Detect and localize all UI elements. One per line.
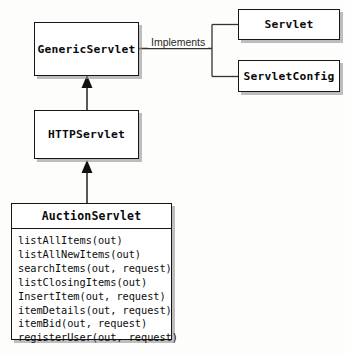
method-item: listAllItems(out) <box>18 234 171 248</box>
class-title-band-auctionservlet: AuctionServlet <box>12 204 171 229</box>
class-name-servletconfig: ServletConfig <box>243 70 334 83</box>
method-item: listClosingItems(out) <box>18 276 171 290</box>
class-box-auctionservlet[interactable]: AuctionServlet listAllItems(out) listAll… <box>11 203 172 340</box>
method-item: itemDetails(out, request) <box>18 304 171 318</box>
inheritance-arrowhead-genericservlet <box>82 75 93 88</box>
method-item: InsertItem(out, request) <box>18 290 171 304</box>
method-item: registerUser(out, request) <box>18 331 171 345</box>
class-box-genericservlet[interactable]: GenericServlet <box>34 22 139 76</box>
method-item: searchItems(out, request) <box>18 262 171 276</box>
class-name-genericservlet: GenericServlet <box>37 43 135 56</box>
class-box-httpservlet[interactable]: HTTPServlet <box>34 110 139 159</box>
inheritance-arrowhead-httpservlet <box>82 160 93 173</box>
class-name-servlet: Servlet <box>264 18 313 31</box>
edge-label-implements: Implements <box>148 36 208 48</box>
class-box-servletconfig[interactable]: ServletConfig <box>238 60 340 92</box>
class-name-httpservlet: HTTPServlet <box>48 128 125 141</box>
class-box-servlet[interactable]: Servlet <box>238 9 340 40</box>
method-compartment-auctionservlet: listAllItems(out) listAllNewItems(out) s… <box>12 229 171 349</box>
uml-class-diagram: Servlet ServletConfig GenericServlet HTT… <box>0 0 345 356</box>
method-item: listAllNewItems(out) <box>18 248 171 262</box>
class-name-auctionservlet: AuctionServlet <box>42 209 142 223</box>
method-item: itemBid(out, request) <box>18 317 171 331</box>
